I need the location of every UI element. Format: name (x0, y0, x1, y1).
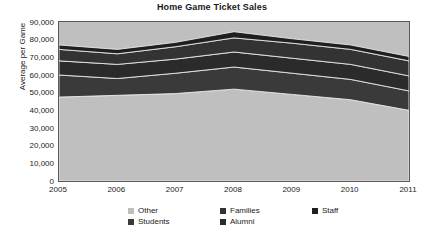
y-tick-label: 60,000 (2, 71, 54, 80)
stacked-area-svg (59, 22, 409, 181)
x-tick-label: 2011 (388, 185, 424, 194)
y-tick-label: 10,000 (2, 159, 54, 168)
y-tick-label: 30,000 (2, 124, 54, 133)
legend-label: Families (230, 206, 260, 215)
legend-item-other[interactable]: Other (128, 206, 158, 215)
legend-label: Staff (322, 206, 338, 215)
x-tick-label: 2007 (155, 185, 195, 194)
y-tick-label: 90,000 (2, 18, 54, 27)
y-tick-label: 80,000 (2, 35, 54, 44)
x-axis-tick-labels: 2005200620072008200920102011 (58, 185, 410, 197)
legend-label: Students (138, 217, 170, 226)
legend-item-families[interactable]: Families (220, 206, 260, 215)
area-series-other (59, 89, 409, 181)
legend-swatch-icon (312, 208, 318, 214)
y-tick-label: 50,000 (2, 88, 54, 97)
legend-swatch-icon (220, 219, 226, 225)
chart-legend: OtherFamiliesStaffStudentsAlumni (128, 206, 358, 230)
x-tick-label: 2008 (213, 185, 253, 194)
legend-swatch-icon (220, 208, 226, 214)
chart-container: Home Game Ticket Sales Average per Game … (0, 0, 424, 240)
y-tick-label: 70,000 (2, 53, 54, 62)
x-tick-label: 2009 (271, 185, 311, 194)
legend-item-alumni[interactable]: Alumni (220, 217, 254, 226)
y-axis-tick-labels: 010,00020,00030,00040,00050,00060,00070,… (0, 0, 54, 240)
x-tick-label: 2006 (96, 185, 136, 194)
legend-swatch-icon (128, 208, 134, 214)
y-tick-label: 20,000 (2, 141, 54, 150)
legend-label: Other (138, 206, 158, 215)
x-tick-label: 2005 (38, 185, 78, 194)
legend-item-staff[interactable]: Staff (312, 206, 338, 215)
chart-title: Home Game Ticket Sales (0, 2, 424, 12)
plot-area (58, 21, 410, 182)
x-tick-label: 2010 (330, 185, 370, 194)
legend-label: Alumni (230, 217, 254, 226)
y-tick-label: 40,000 (2, 106, 54, 115)
legend-swatch-icon (128, 219, 134, 225)
legend-item-students[interactable]: Students (128, 217, 170, 226)
